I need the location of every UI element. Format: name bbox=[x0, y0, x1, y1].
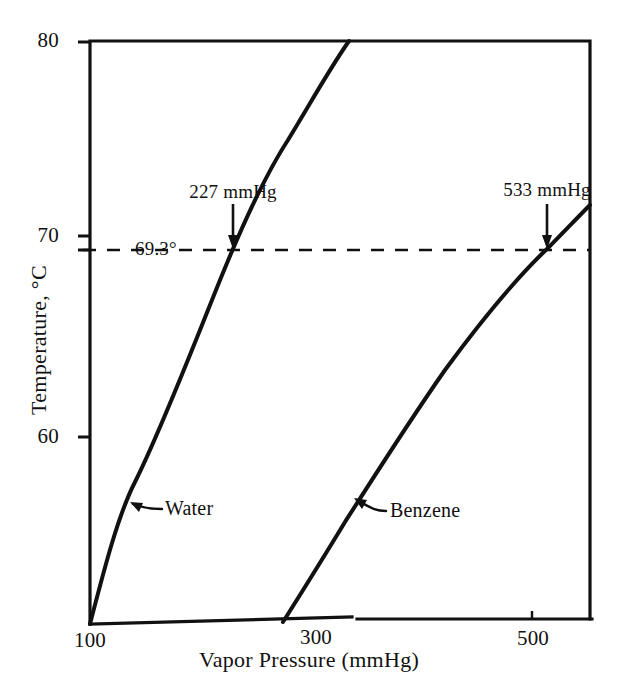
x-axis-title: Vapor Pressure (mmHg) bbox=[199, 649, 419, 671]
y-axis-title: Temperature, °C bbox=[28, 265, 50, 415]
x-tick-label-500: 500 bbox=[517, 628, 549, 649]
chart-page: 80 70 60 Temperature, °C 100 300 500 Vap… bbox=[0, 0, 622, 685]
plot-frame-top-left-right bbox=[90, 41, 590, 624]
annotation-label-533: 533 mmHg bbox=[503, 180, 591, 199]
y-axis-title-wrap: Temperature, °C bbox=[0, 0, 60, 685]
annotation-arrow-533 bbox=[542, 204, 552, 249]
annotation-label-69-3: 69.3° bbox=[135, 239, 177, 258]
x-tick-label-100: 100 bbox=[74, 630, 106, 651]
callout-leader-water bbox=[130, 502, 162, 512]
series-label-water: Water bbox=[165, 498, 213, 518]
series-label-benzene: Benzene bbox=[390, 500, 460, 520]
x-axis-left-segment bbox=[90, 617, 352, 624]
callout-leader-benzene bbox=[354, 498, 386, 511]
series-line-water bbox=[90, 41, 349, 624]
vapor-pressure-chart bbox=[0, 0, 622, 685]
x-tick-label-300: 300 bbox=[300, 627, 332, 648]
annotation-label-227: 227 mmHg bbox=[189, 182, 277, 201]
series-line-benzene bbox=[283, 205, 590, 622]
